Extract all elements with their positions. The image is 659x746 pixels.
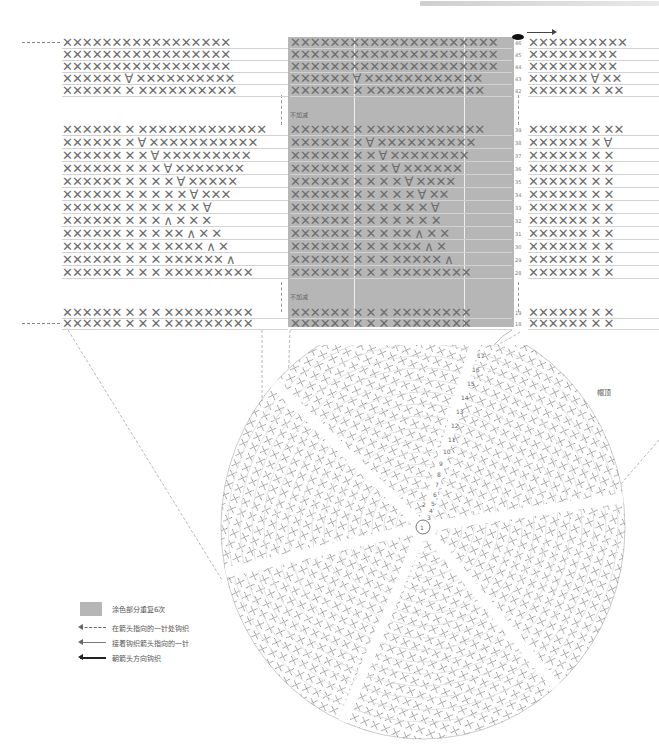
thin-arrow-icon xyxy=(80,642,106,643)
crown-round-diagram: 171615 141312 11109 876 543 21 xyxy=(215,345,645,745)
svg-text:7: 7 xyxy=(435,481,439,488)
legend-label: 在箭头指向的一针处钩织 xyxy=(112,623,189,633)
svg-text:5: 5 xyxy=(431,500,435,507)
legend-label: 朝箭头方向钩织 xyxy=(112,653,161,663)
svg-text:12: 12 xyxy=(451,422,459,429)
svg-text:1: 1 xyxy=(420,524,424,531)
svg-text:10: 10 xyxy=(443,448,451,455)
svg-text:13: 13 xyxy=(456,408,464,415)
legend-item-dashed: 在箭头指向的一针处钩织 xyxy=(80,620,189,635)
svg-text:11: 11 xyxy=(448,436,456,443)
shade-swatch-icon xyxy=(80,602,102,616)
svg-text:15: 15 xyxy=(467,380,475,387)
svg-text:2: 2 xyxy=(422,501,426,508)
svg-text:14: 14 xyxy=(461,394,469,401)
legend: 涂色部分重复6次 在箭头指向的一针处钩织 接着钩织箭头指向的一针 朝箭头方向钩织 xyxy=(80,598,189,665)
svg-text:4: 4 xyxy=(429,507,433,514)
dashed-arrow-icon xyxy=(80,627,106,628)
legend-label: 涂色部分重复6次 xyxy=(112,604,165,614)
svg-text:17: 17 xyxy=(477,352,485,359)
legend-item-thick: 朝箭头方向钩织 xyxy=(80,650,189,665)
svg-text:6: 6 xyxy=(433,491,437,498)
svg-text:8: 8 xyxy=(437,471,441,478)
legend-item-repeat: 涂色部分重复6次 xyxy=(80,598,189,620)
crown-label: 帽顶 xyxy=(597,387,611,397)
legend-label: 接着钩织箭头指向的一针 xyxy=(112,638,189,648)
legend-item-thin: 接着钩织箭头指向的一针 xyxy=(80,635,189,650)
svg-text:3: 3 xyxy=(427,514,431,521)
thick-arrow-icon xyxy=(80,657,106,659)
svg-text:9: 9 xyxy=(439,460,443,467)
svg-text:16: 16 xyxy=(472,366,480,373)
